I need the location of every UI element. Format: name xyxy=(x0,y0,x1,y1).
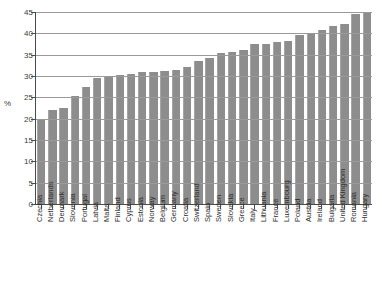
gridline xyxy=(35,76,372,77)
bar[interactable] xyxy=(172,70,180,204)
y-axis-tick-mark xyxy=(31,33,36,34)
bar[interactable] xyxy=(127,74,135,204)
x-axis-tick-mark xyxy=(254,205,255,209)
x-axis-category-label[interactable]: Germany xyxy=(169,191,178,222)
y-axis-tick-mark xyxy=(31,140,36,141)
bar[interactable] xyxy=(71,96,79,204)
x-axis-category-label[interactable]: Switzerland xyxy=(192,183,201,222)
x-axis-category-label[interactable]: Finland xyxy=(113,197,122,222)
x-axis-category-label[interactable]: Austria xyxy=(304,199,313,222)
x-axis-tick-mark xyxy=(321,205,322,209)
bar[interactable] xyxy=(138,72,146,204)
bar[interactable] xyxy=(363,12,371,204)
x-axis-tick-mark xyxy=(333,205,334,209)
x-axis-category-label[interactable]: Norway xyxy=(147,197,156,222)
x-axis-tick-mark xyxy=(198,205,199,209)
y-axis-tick-mark xyxy=(31,76,36,77)
x-axis-tick-mark xyxy=(366,205,367,209)
x-axis-tick-mark xyxy=(119,205,120,209)
x-axis-category-label[interactable]: Croatia xyxy=(181,198,190,222)
y-axis-tick-mark xyxy=(31,55,36,56)
x-axis-category-label[interactable]: Sweden xyxy=(214,195,223,222)
x-axis-category-label[interactable]: Lithuania xyxy=(259,192,268,222)
gridline xyxy=(35,55,372,56)
x-axis-tick-mark xyxy=(97,205,98,209)
x-axis-tick-mark xyxy=(41,205,42,209)
x-axis-category-label[interactable]: Cyprus xyxy=(124,198,133,222)
y-axis-tick-mark xyxy=(31,97,36,98)
x-axis-category-label[interactable]: Czechia xyxy=(35,195,44,222)
bar[interactable] xyxy=(329,26,337,204)
x-axis-category-label[interactable]: Belgium xyxy=(158,195,167,222)
bar[interactable] xyxy=(351,14,359,204)
y-axis-unit-label: % xyxy=(4,99,11,108)
x-axis-tick-mark xyxy=(355,205,356,209)
x-axis-category-label[interactable]: Denmark xyxy=(57,192,66,222)
x-axis-tick-mark xyxy=(153,205,154,209)
x-axis-tick-mark xyxy=(175,205,176,209)
bar[interactable] xyxy=(228,52,236,204)
x-axis-category-label[interactable]: Slovakia xyxy=(226,194,235,222)
x-axis-tick-mark xyxy=(277,205,278,209)
x-axis-category-label[interactable]: Poland xyxy=(293,199,302,222)
y-axis-tick-mark xyxy=(31,183,36,184)
y-axis-tick-mark xyxy=(31,119,36,120)
x-axis-tick-mark xyxy=(142,205,143,209)
y-axis-tick-mark xyxy=(31,12,36,13)
x-axis-category-label[interactable]: Estonia xyxy=(136,197,145,222)
y-axis-tick-mark xyxy=(31,204,36,205)
bar[interactable] xyxy=(59,108,67,204)
x-axis-tick-mark xyxy=(63,205,64,209)
x-axis-category-label[interactable]: Hungary xyxy=(360,194,369,222)
bar[interactable] xyxy=(250,44,258,204)
x-axis-tick-mark xyxy=(288,205,289,209)
plot-area xyxy=(35,12,372,204)
x-axis-tick-mark xyxy=(299,205,300,209)
x-axis-tick-mark xyxy=(130,205,131,209)
gridline xyxy=(35,140,372,141)
x-axis-tick-mark xyxy=(220,205,221,209)
x-axis-category-label[interactable]: Spain xyxy=(203,203,212,222)
bar[interactable] xyxy=(318,30,326,204)
gridline xyxy=(35,161,372,162)
x-axis-category-label[interactable]: Italy xyxy=(248,208,257,222)
x-axis-category-label[interactable]: Malta xyxy=(102,204,111,222)
x-axis-tick-mark xyxy=(74,205,75,209)
x-axis-tick-mark xyxy=(265,205,266,209)
bar-chart: % 051015202530354045 CzechiaNetherlandsD… xyxy=(0,0,382,289)
x-axis-category-label[interactable]: United Kingdom xyxy=(338,169,347,222)
bar[interactable] xyxy=(273,42,281,204)
x-axis-category-label[interactable]: Portugal xyxy=(80,194,89,222)
bars-layer xyxy=(35,12,372,204)
x-axis-tick-mark xyxy=(243,205,244,209)
bar[interactable] xyxy=(149,72,157,204)
bar[interactable] xyxy=(160,71,168,204)
x-axis-tick-mark xyxy=(344,205,345,209)
x-axis-tick-mark xyxy=(209,205,210,209)
gridline xyxy=(35,97,372,98)
x-axis-category-label[interactable]: Greece xyxy=(237,197,246,222)
gridline xyxy=(35,12,372,13)
x-axis-category-label[interactable]: Luxembourg xyxy=(282,180,291,222)
x-axis-category-label[interactable]: Latvia xyxy=(91,202,100,222)
bar[interactable] xyxy=(239,50,247,204)
x-axis-category-label[interactable]: Romania xyxy=(349,192,358,222)
bar[interactable] xyxy=(262,44,270,204)
gridline xyxy=(35,119,372,120)
x-axis-tick-mark xyxy=(52,205,53,209)
gridline xyxy=(35,183,372,184)
x-axis-tick-mark xyxy=(232,205,233,209)
x-axis-category-label[interactable]: Bulgaria xyxy=(327,194,336,222)
x-axis-tick-mark xyxy=(86,205,87,209)
x-axis-tick-mark xyxy=(108,205,109,209)
y-axis-tick-mark xyxy=(31,161,36,162)
x-axis-tick-mark xyxy=(187,205,188,209)
x-axis-category-label[interactable]: Netherlands xyxy=(46,182,55,222)
gridline xyxy=(35,33,372,34)
x-axis-tick-mark xyxy=(164,205,165,209)
bar[interactable] xyxy=(82,87,90,204)
x-axis-category-label[interactable]: France xyxy=(271,199,280,222)
x-axis-category-label[interactable]: Ireland xyxy=(315,199,324,222)
x-axis-category-label[interactable]: Slovenia xyxy=(68,193,77,222)
y-axis-tick-labels: 051015202530354045 xyxy=(18,0,33,289)
